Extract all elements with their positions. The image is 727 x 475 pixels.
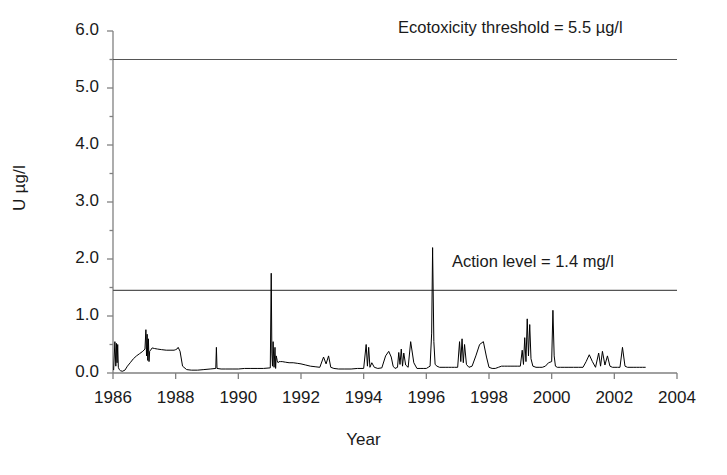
data-series-line [114,248,646,372]
chart-figure: U µg/l Year 0.01.02.03.04.05.06.0 198619… [0,0,727,475]
plot-area [0,0,727,475]
